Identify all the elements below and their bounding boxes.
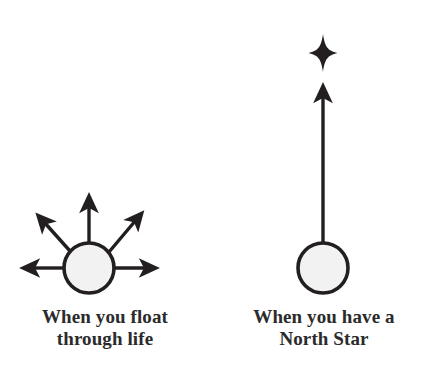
left-panel-graphic <box>32 205 147 293</box>
caption-float-through-life: When you float through life <box>2 306 208 350</box>
north-star-circle <box>298 243 348 293</box>
arrow-up-left <box>44 222 70 251</box>
right-panel-graphic <box>298 34 348 293</box>
float-circle <box>64 243 114 293</box>
arrow-up-right <box>109 220 136 252</box>
north-star-icon <box>309 34 338 72</box>
figure-canvas: When you float through life When you hav… <box>0 0 427 389</box>
caption-north-star: When you have a North Star <box>222 306 426 350</box>
